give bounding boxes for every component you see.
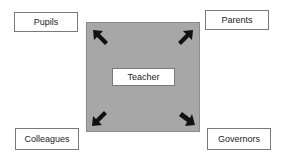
node-label: Parents bbox=[221, 15, 252, 25]
node-teacher: Teacher bbox=[112, 68, 175, 86]
node-label: Colleagues bbox=[24, 134, 69, 144]
node-parents: Parents bbox=[205, 10, 269, 30]
node-pupils: Pupils bbox=[14, 12, 78, 32]
node-label: Pupils bbox=[34, 17, 59, 27]
node-colleagues: Colleagues bbox=[15, 128, 79, 150]
arrow-down-left-icon bbox=[91, 109, 109, 127]
node-governors: Governors bbox=[207, 128, 271, 150]
node-label: Teacher bbox=[127, 72, 159, 82]
arrow-up-left-icon bbox=[92, 29, 110, 47]
arrow-down-right-icon bbox=[178, 109, 196, 127]
node-label: Governors bbox=[218, 134, 260, 144]
arrow-up-right-icon bbox=[176, 29, 194, 47]
